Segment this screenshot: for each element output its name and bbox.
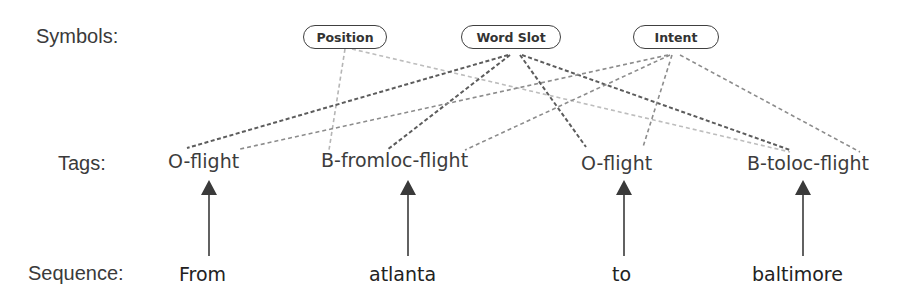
sequence-row-label: Sequence: [28, 262, 124, 285]
word-atlanta: atlanta [369, 263, 436, 285]
edge-wordslot-btoloc [522, 55, 790, 150]
tag-b-fromloc-flight: B-fromloc-flight [321, 149, 468, 171]
tag-o-flight-1: O-flight [168, 150, 239, 172]
arrow-baltimore-btoloc [795, 180, 811, 256]
edge-intent-oflight1 [240, 55, 668, 149]
symbol-word-slot: Word Slot [461, 25, 561, 49]
tag-o-flight-2: O-flight [581, 152, 652, 174]
edge-wordslot-oflight2 [520, 55, 586, 147]
tags-row-label: Tags: [58, 152, 106, 175]
edge-intent-bfromloc [465, 55, 670, 150]
symbols-row-label: Symbols: [36, 25, 118, 48]
word-from: From [179, 263, 226, 285]
arrow-atlanta-bfromloc [400, 180, 416, 256]
word-baltimore: baltimore [752, 263, 843, 285]
tag-b-toloc-flight: B-toloc-flight [747, 152, 869, 174]
edge-intent-oflight2 [643, 55, 672, 147]
word-to: to [612, 263, 631, 285]
diagram-canvas: Symbols: Tags: Sequence: Position Word S… [0, 0, 916, 304]
arrow-to-oflight2 [616, 180, 632, 256]
symbol-intent: Intent [633, 25, 719, 49]
edge-position-bfromloc [329, 49, 345, 150]
symbol-position: Position [303, 25, 387, 49]
arrow-from-oflight1 [201, 180, 217, 256]
edge-intent-btoloc [680, 55, 860, 152]
